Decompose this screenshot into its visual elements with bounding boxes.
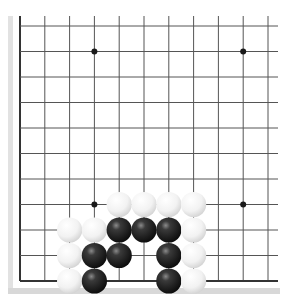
star-point-icon	[91, 49, 97, 55]
black-stone	[107, 217, 132, 242]
white-stone	[57, 217, 82, 242]
white-stone	[131, 192, 156, 217]
white-stone	[57, 243, 82, 268]
star-point-icon	[91, 202, 97, 208]
white-stone	[156, 192, 181, 217]
black-stone	[82, 268, 107, 293]
stones-layer	[57, 192, 206, 294]
white-stone	[57, 268, 82, 293]
white-stone	[181, 217, 206, 242]
go-board[interactable]	[0, 0, 289, 304]
star-point-icon	[240, 202, 246, 208]
white-stone	[181, 243, 206, 268]
star-point-icon	[240, 49, 246, 55]
black-stone	[131, 217, 156, 242]
white-stone	[181, 192, 206, 217]
white-stone	[181, 268, 206, 293]
white-stone	[82, 217, 107, 242]
black-stone	[156, 268, 181, 293]
black-stone	[156, 217, 181, 242]
white-stone	[107, 192, 132, 217]
black-stone	[82, 243, 107, 268]
black-stone	[107, 243, 132, 268]
black-stone	[156, 243, 181, 268]
